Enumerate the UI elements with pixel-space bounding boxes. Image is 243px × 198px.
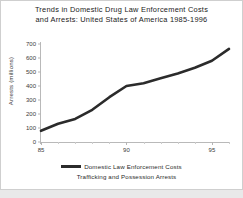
x-tick-mark <box>126 142 127 145</box>
x-tick-label: 85 <box>38 147 45 153</box>
chart-legend: Domestic Law Enforcement Costs Trafficki… <box>0 162 243 182</box>
x-axis-line <box>40 142 230 143</box>
legend-entry-costs-label: Domestic Law Enforcement Costs <box>84 163 182 170</box>
x-tick-mark-minor <box>92 142 93 144</box>
x-tick-mark-minor <box>195 142 196 144</box>
x-tick-mark-minor <box>144 142 145 144</box>
y-axis-label: Arrests (millions) <box>8 46 14 116</box>
x-tick-mark-minor <box>178 142 179 144</box>
legend-entry-arrests-label: Trafficking and Possession Arrests <box>77 173 177 180</box>
series-line-domestic-law-enforcement-costs <box>41 44 229 142</box>
x-tick-mark-minor <box>75 142 76 144</box>
plot-area: 0100200300400500600700 859095 <box>41 44 229 142</box>
legend-entry-arrests: Trafficking and Possession Arrests <box>0 172 243 182</box>
chart-title-line-2: and Arrests: United States of America 19… <box>14 15 229 25</box>
x-tick-mark <box>41 142 42 145</box>
x-tick-label: 95 <box>209 147 216 153</box>
chart-title-line-1: Trends in Domestic Drug Law Enforcement … <box>35 5 208 14</box>
x-tick-mark-minor <box>58 142 59 144</box>
x-tick-mark-minor <box>109 142 110 144</box>
x-tick-mark-minor <box>161 142 162 144</box>
x-tick-label: 90 <box>123 147 130 153</box>
bottom-strip <box>0 190 243 198</box>
chart-title: Trends in Domestic Drug Law Enforcement … <box>14 5 229 25</box>
chart-figure: Trends in Domestic Drug Law Enforcement … <box>0 0 243 198</box>
x-tick-mark <box>212 142 213 145</box>
legend-line-swatch-icon <box>61 165 81 168</box>
legend-entry-costs: Domestic Law Enforcement Costs <box>0 162 243 172</box>
x-tick-mark-minor <box>229 142 230 144</box>
